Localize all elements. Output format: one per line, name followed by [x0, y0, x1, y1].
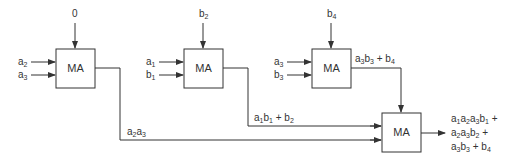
ma-label-3: MA: [323, 62, 340, 74]
wire-a3b3-b4: [351, 68, 401, 112]
label-a3: a3: [18, 69, 28, 81]
label-zero: 0: [72, 8, 78, 19]
label-a3-box3: a3: [274, 56, 284, 68]
ma-label-2: MA: [195, 62, 212, 74]
label-a1: a1: [146, 56, 156, 68]
final-output-expression: a1a2a3b1 + a2a3b2 + a3b3 + b4: [451, 113, 498, 153]
label-b4: b4: [327, 8, 337, 20]
label-a1b1-b2: a1b1 + b2: [254, 112, 294, 124]
label-a2a3: a2a3: [127, 126, 146, 138]
label-b2: b2: [199, 8, 209, 20]
svg-text:a3b3 + b4: a3b3 + b4: [451, 141, 491, 153]
label-b3: b3: [274, 69, 284, 81]
ma-label-1: MA: [67, 62, 84, 74]
svg-text:a1a2a3b1 +: a1a2a3b1 +: [451, 113, 498, 125]
label-b1: b1: [146, 69, 156, 81]
label-a3b3-b4: a3b3 + b4: [355, 53, 395, 65]
wire-a1b1-b2: [223, 68, 381, 126]
ma-label-4: MA: [393, 126, 410, 138]
label-a2: a2: [18, 56, 28, 68]
ma-tree-diagram: MA MA MA MA 0 a2 a3 a2a3 b2 a1 b1 a1b1 +…: [0, 0, 518, 159]
svg-text:a2a3b2 +: a2a3b2 +: [451, 127, 488, 139]
